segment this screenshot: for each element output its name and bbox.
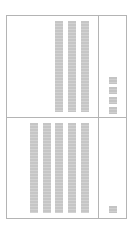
placeholder-square xyxy=(109,206,117,213)
horizontal-divider xyxy=(7,117,126,118)
placeholder-bar xyxy=(30,123,38,213)
placeholder-bar xyxy=(43,123,51,213)
placeholder-square xyxy=(109,77,117,84)
placeholder-bar xyxy=(68,21,76,112)
placeholder-bar xyxy=(81,123,89,213)
placeholder-bar xyxy=(68,123,76,213)
placeholder-square xyxy=(109,97,117,104)
wireframe-frame xyxy=(6,15,127,219)
placeholder-square xyxy=(109,107,117,114)
vertical-divider xyxy=(98,16,99,218)
placeholder-bar xyxy=(55,123,63,213)
placeholder-bar xyxy=(55,21,63,112)
placeholder-square xyxy=(109,87,117,94)
placeholder-bar xyxy=(81,21,89,112)
